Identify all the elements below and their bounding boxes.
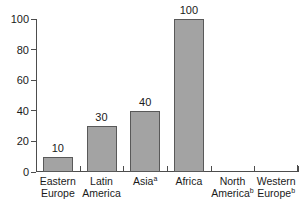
bar[interactable]: [43, 157, 73, 172]
y-axis-tick-label: 20: [17, 136, 29, 147]
bar-value-label: 100: [167, 5, 211, 16]
bar-value-label: 40: [123, 97, 167, 108]
bar[interactable]: [130, 111, 160, 172]
category-label-line: Western: [248, 175, 304, 187]
y-axis-tick-label: 80: [17, 44, 29, 55]
bar-chart: 020406080100 103040100 EasternEuropeLati…: [0, 0, 308, 208]
y-axis-tick-label: 40: [17, 105, 29, 116]
category-label-line: Europeb: [248, 187, 304, 199]
y-axis-tick-label: 100: [11, 14, 29, 25]
x-axis-tick: [298, 166, 299, 172]
bar[interactable]: [174, 19, 204, 172]
y-axis-tick-label: 60: [17, 75, 29, 86]
bar[interactable]: [87, 126, 117, 172]
y-axis-tick-label: 0: [23, 167, 29, 178]
x-axis-category-label: WesternEuropeb: [248, 175, 304, 199]
category-footnote-marker: b: [291, 187, 295, 194]
bar-value-label: 10: [36, 143, 80, 154]
category-footnote-marker: a: [153, 175, 157, 182]
bar-value-label: 30: [80, 112, 124, 123]
category-label-line: America: [74, 187, 130, 199]
